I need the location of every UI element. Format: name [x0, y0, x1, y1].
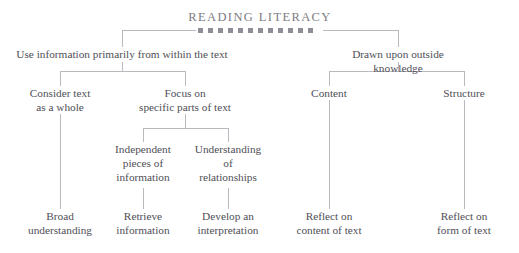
decorative-square: [248, 28, 253, 33]
decorative-square: [288, 28, 293, 33]
node-content: Content: [311, 87, 347, 101]
reading-literacy-diagram: READING LITERACY Use information primari…: [0, 0, 519, 253]
node-develop-an-interpretation: Develop an interpretation: [198, 210, 259, 238]
decorative-square: [278, 28, 283, 33]
decorative-square: [208, 28, 213, 33]
node-use-information-within-text: Use information primarily from within th…: [16, 48, 227, 62]
node-broad-understanding: Broad understanding: [28, 210, 92, 238]
node-retrieve-information: Retrieve information: [116, 210, 169, 238]
decorative-square: [218, 28, 223, 33]
node-independent-pieces-of-information: Independent pieces of information: [115, 143, 171, 184]
decorative-square-row: [198, 28, 313, 33]
node-consider-text-as-a-whole: Consider text as a whole: [30, 87, 91, 115]
decorative-square: [198, 28, 203, 33]
node-understanding-of-relationships: Understanding of relationships: [195, 143, 262, 184]
node-reflect-on-form-of-text: Reflect on form of text: [437, 210, 491, 238]
decorative-square: [298, 28, 303, 33]
diagram-title: READING LITERACY: [188, 10, 332, 25]
node-structure: Structure: [443, 87, 484, 101]
node-reflect-on-content-of-text: Reflect on content of text: [296, 210, 361, 238]
decorative-square: [268, 28, 273, 33]
node-focus-on-specific-parts-of-text: Focus on specific parts of text: [139, 87, 231, 115]
decorative-square: [258, 28, 263, 33]
decorative-square: [308, 28, 313, 33]
decorative-square: [238, 28, 243, 33]
node-drawn-upon-outside-knowledge: Drawn upon outside knowledge: [338, 48, 459, 76]
decorative-square: [228, 28, 233, 33]
